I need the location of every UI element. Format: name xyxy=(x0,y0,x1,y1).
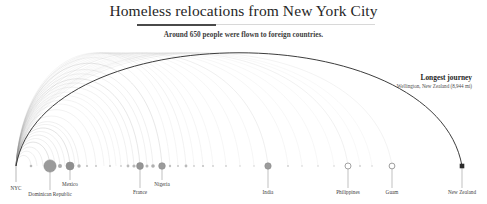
destination-dot[interactable] xyxy=(58,164,62,168)
destination-marker-philippines[interactable] xyxy=(345,163,351,169)
destination-dot[interactable] xyxy=(301,165,303,167)
destination-dot[interactable] xyxy=(86,165,88,167)
destination-marker-guam[interactable] xyxy=(389,163,395,169)
destination-dot[interactable] xyxy=(212,165,214,167)
flight-arc xyxy=(16,53,360,166)
destination-marker-mexico[interactable] xyxy=(66,162,74,170)
flight-arc xyxy=(16,74,147,166)
axis-label-new-zealand: New Zealand xyxy=(448,189,476,195)
destination-dot[interactable] xyxy=(151,164,155,168)
axis-label-india: India xyxy=(263,189,274,195)
axis-label-guam: Guam xyxy=(386,189,399,195)
flight-arc xyxy=(16,53,302,166)
arc-layer xyxy=(0,0,487,204)
destination-dot[interactable] xyxy=(287,165,289,167)
destination-dot[interactable] xyxy=(95,165,97,167)
axis-label-nyc: NYC xyxy=(10,185,21,191)
destination-dot[interactable] xyxy=(202,165,204,167)
destination-dot[interactable] xyxy=(193,165,195,167)
axis-label-france: France xyxy=(133,189,147,195)
flight-arc xyxy=(16,53,203,166)
destination-dot[interactable] xyxy=(77,164,80,167)
destination-marker-india[interactable] xyxy=(265,163,271,169)
destination-dot[interactable] xyxy=(225,165,227,167)
destination-dot[interactable] xyxy=(169,165,171,167)
axis-label-dominican-republic: Dominican Republic xyxy=(28,191,71,197)
destination-dot[interactable] xyxy=(359,165,361,167)
flight-arc xyxy=(16,83,134,166)
destination-dot[interactable] xyxy=(333,165,335,167)
annotation-title: Longest journey xyxy=(300,74,472,83)
destination-dot[interactable] xyxy=(120,165,122,167)
flight-arc xyxy=(16,53,254,166)
destination-marker-new-zealand[interactable] xyxy=(460,164,465,169)
destination-dot[interactable] xyxy=(127,165,130,168)
destination-dot[interactable] xyxy=(177,165,179,167)
destination-dot[interactable] xyxy=(185,165,188,168)
arc-diagram-chart: Homeless relocations from New York City … xyxy=(0,0,487,204)
destination-marker-nigeria[interactable] xyxy=(159,163,166,170)
destination-dot[interactable] xyxy=(317,165,319,167)
flight-arc xyxy=(16,53,268,166)
destination-marker-france[interactable] xyxy=(137,163,144,170)
annotation-subtitle: Wellington, New Zealand (8,944 mi) xyxy=(300,83,472,90)
longest-journey-annotation: Longest journey Wellington, New Zealand … xyxy=(300,74,472,90)
axis-label-nigeria: Nigeria xyxy=(154,181,170,187)
destination-dot[interactable] xyxy=(109,165,111,167)
destination-dot[interactable] xyxy=(371,165,373,167)
destination-dot[interactable] xyxy=(146,165,149,168)
axis-label-mexico: Mexico xyxy=(62,181,78,187)
axis-label-philippines: Philippines xyxy=(336,189,360,195)
destination-dot[interactable] xyxy=(30,165,33,168)
destination-dot[interactable] xyxy=(253,165,255,167)
destination-marker-dominican-republic[interactable] xyxy=(44,160,56,172)
destination-dot[interactable] xyxy=(132,164,135,167)
destination-dot[interactable] xyxy=(239,165,241,167)
